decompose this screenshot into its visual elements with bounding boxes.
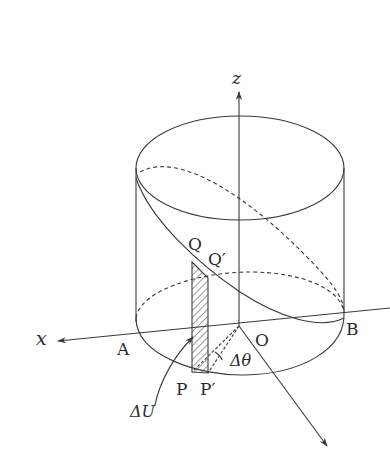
- z-axis-label: z: [231, 68, 242, 88]
- origin-label: O: [255, 330, 269, 350]
- cylinder-wedge-diagram: z x O A B P P′ Q Q′ Δθ ΔU: [0, 0, 390, 450]
- point-A-label: A: [116, 339, 130, 359]
- delta-theta-label: Δθ: [229, 351, 252, 370]
- bottom-ellipse-back: [136, 272, 344, 318]
- point-P-prime-label: P′: [200, 379, 215, 399]
- delta-U-label: ΔU: [129, 402, 156, 421]
- x-axis-label: x: [36, 327, 47, 349]
- y-axis: [239, 326, 327, 446]
- cut-curve-back: [140, 167, 344, 312]
- cut-curve-front: [136, 178, 344, 323]
- x-axis: [58, 308, 390, 341]
- top-ellipse: [136, 116, 344, 220]
- volume-element-strip: [192, 262, 208, 373]
- point-Q-label: Q: [188, 234, 202, 254]
- point-Q-prime-label: Q′: [208, 249, 226, 269]
- point-B-label: B: [346, 319, 359, 339]
- point-P-label: P: [176, 379, 187, 399]
